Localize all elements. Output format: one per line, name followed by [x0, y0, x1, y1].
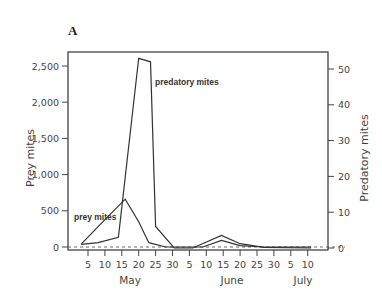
x-tick-label: 15 [116, 259, 128, 270]
x-tick-label: 10 [302, 259, 314, 270]
x-tick-label: 10 [99, 259, 111, 270]
left-tick-label: 500 [41, 205, 59, 216]
month-label: May [119, 274, 141, 286]
x-tick-label: 5 [186, 259, 192, 270]
prey-mites-line [81, 199, 311, 247]
x-tick-label: 20 [133, 259, 145, 270]
predatory-mites-label: predatory mites [155, 77, 219, 87]
right-y-axis: 01020304050 [328, 64, 350, 254]
x-tick-label: 25 [251, 259, 263, 270]
x-tick-label: 5 [85, 259, 91, 270]
right-tick-label: 20 [338, 171, 350, 182]
left-axis-title: Prey mites [24, 129, 37, 187]
right-tick-label: 50 [338, 64, 350, 75]
panel-label: A [68, 23, 78, 38]
left-tick-label: 0 [53, 242, 59, 253]
month-labels: MayJuneJuly [119, 274, 312, 286]
left-tick-label: 2,500 [32, 61, 59, 72]
population-chart: A 05001,0001,5002,0002,500 01020304050 5… [0, 0, 382, 304]
month-label: June [220, 274, 244, 286]
right-tick-label: 40 [338, 99, 350, 110]
x-tick-label: 30 [268, 259, 280, 270]
x-tick-label: 30 [166, 259, 178, 270]
x-tick-label: 5 [288, 259, 294, 270]
x-tick-label: 20 [234, 259, 246, 270]
x-tick-label: 15 [217, 259, 229, 270]
month-label: July [293, 274, 313, 286]
right-tick-label: 30 [338, 135, 350, 146]
right-tick-label: 10 [338, 207, 350, 218]
x-tick-label: 10 [200, 259, 212, 270]
right-axis-title: Predatory mites [358, 114, 371, 202]
x-tick-label: 25 [150, 259, 162, 270]
x-axis: 5101520253051015202530510 [85, 250, 314, 270]
left-y-axis: 05001,0001,5002,0002,500 [32, 61, 68, 253]
prey-mites-label: prey mites [74, 212, 117, 222]
right-tick-label: 0 [338, 243, 344, 254]
left-tick-label: 2,000 [32, 97, 59, 108]
